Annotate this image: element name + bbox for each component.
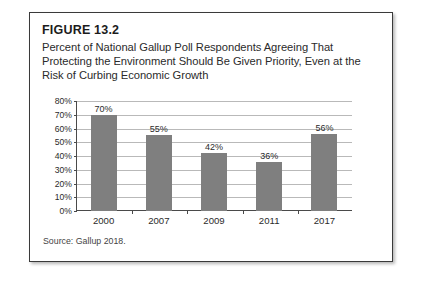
x-tick-label: 2017 bbox=[314, 215, 335, 226]
y-tick-mark bbox=[74, 211, 77, 212]
bar-value-label: 70% bbox=[95, 104, 113, 114]
y-tick-label: 40% bbox=[55, 151, 72, 161]
x-tick-label: 2007 bbox=[148, 215, 169, 226]
bar bbox=[146, 135, 172, 211]
bar-group: 36% bbox=[242, 101, 297, 211]
bar-group: 56% bbox=[297, 101, 352, 211]
bar bbox=[201, 153, 227, 211]
bar-value-label: 42% bbox=[205, 142, 223, 152]
figure-box: FIGURE 13.2 Percent of National Gallup P… bbox=[29, 12, 393, 262]
x-tick-label: 2000 bbox=[93, 215, 114, 226]
figure-number-label: FIGURE 13.2 bbox=[42, 23, 382, 37]
bars-layer: 70%55%42%36%56% bbox=[76, 101, 352, 211]
y-tick-label: 60% bbox=[55, 124, 72, 134]
x-axis: 20002007200920112017 bbox=[76, 213, 352, 229]
y-tick-label: 10% bbox=[55, 192, 72, 202]
bar-value-label: 55% bbox=[150, 124, 168, 134]
bar-value-label: 36% bbox=[260, 151, 278, 161]
figure-caption-text: Percent of National Gallup Poll Responde… bbox=[42, 40, 382, 83]
y-tick-label: 30% bbox=[55, 165, 72, 175]
y-tick-label: 70% bbox=[55, 110, 72, 120]
figure-caption-block: FIGURE 13.2 Percent of National Gallup P… bbox=[42, 23, 382, 83]
bar bbox=[91, 115, 117, 211]
bar-value-label: 56% bbox=[315, 123, 333, 133]
y-tick-label: 50% bbox=[55, 137, 72, 147]
y-tick-label: 20% bbox=[55, 179, 72, 189]
x-tick-label: 2011 bbox=[259, 215, 280, 226]
bar-chart: 0%10%20%30%40%50%60%70%80% 70%55%42%36%5… bbox=[40, 101, 352, 229]
bar-group: 55% bbox=[131, 101, 186, 211]
y-tick-label: 0% bbox=[60, 206, 72, 216]
y-axis: 0%10%20%30%40%50%60%70%80% bbox=[40, 101, 74, 211]
bar-group: 70% bbox=[76, 101, 131, 211]
bar bbox=[256, 162, 282, 212]
bar bbox=[311, 134, 337, 211]
x-tick-label: 2009 bbox=[203, 215, 224, 226]
y-tick-label: 80% bbox=[55, 96, 72, 106]
source-note: Source: Gallup 2018. bbox=[43, 236, 126, 246]
bar-group: 42% bbox=[186, 101, 241, 211]
